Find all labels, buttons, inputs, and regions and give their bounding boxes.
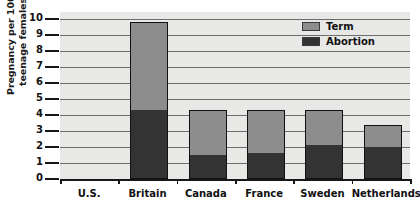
y-tick-label: 5 (19, 92, 43, 103)
x-tick-mark (293, 179, 295, 184)
bar-segment-term (131, 23, 167, 110)
x-tick-mark (118, 179, 120, 184)
y-tick-label: 8 (19, 44, 43, 55)
bar-segment-abortion (306, 145, 342, 178)
bar-sweden (364, 125, 402, 179)
y-tick-mark (45, 98, 59, 100)
x-axis-label: U.S. (60, 188, 118, 199)
bar-segment-abortion (190, 155, 226, 178)
x-tick-mark (410, 179, 412, 184)
bar-france (305, 110, 343, 179)
x-axis-label: Canada (177, 188, 235, 199)
y-tick-label: 10 (19, 12, 43, 23)
y-tick-mark (45, 178, 59, 180)
chart-container: Pregnancy per 1000 teenage females 10987… (0, 0, 420, 208)
gridline (60, 51, 410, 52)
legend-swatch-term (302, 22, 320, 31)
y-tick-label: 7 (19, 60, 43, 71)
bar-canada (247, 110, 285, 179)
gridline (60, 163, 410, 164)
y-tick-mark (45, 66, 59, 68)
y-tick-label: 6 (19, 76, 43, 87)
gridline (60, 131, 410, 132)
y-tick-label: 2 (19, 140, 43, 151)
bar-segment-abortion (131, 110, 167, 178)
y-tick-mark (45, 114, 59, 116)
bar-segment-term (365, 126, 401, 148)
bar-segment-abortion (365, 147, 401, 178)
x-tick-mark (177, 179, 179, 184)
x-tick-mark (60, 179, 62, 184)
y-tick-label: 3 (19, 124, 43, 135)
y-tick-mark (45, 34, 59, 36)
x-axis-label: Britain (118, 188, 176, 199)
gridline (60, 147, 410, 148)
legend-label-abortion: Abortion (326, 36, 375, 47)
chart-legend: Term Abortion (302, 20, 375, 50)
y-tick-mark (45, 130, 59, 132)
x-axis-label: Sweden (293, 188, 351, 199)
y-tick-mark (45, 50, 59, 52)
y-tick-label: 1 (19, 156, 43, 167)
bar-us (130, 22, 168, 179)
gridline (60, 99, 410, 100)
legend-item-abortion: Abortion (302, 35, 375, 48)
x-axis-label: Netherlands (352, 188, 410, 199)
legend-label-term: Term (326, 21, 354, 32)
y-tick-label: 9 (19, 28, 43, 39)
y-tick-mark (45, 162, 59, 164)
x-tick-mark (352, 179, 354, 184)
legend-swatch-abortion (302, 37, 320, 46)
bar-segment-abortion (248, 153, 284, 178)
x-axis-label: France (235, 188, 293, 199)
gridline (60, 115, 410, 116)
legend-item-term: Term (302, 20, 375, 33)
bar-segment-term (190, 111, 226, 154)
y-tick-label: 0 (19, 172, 43, 183)
x-tick-mark (235, 179, 237, 184)
bar-segment-term (306, 111, 342, 145)
y-tick-mark (45, 82, 59, 84)
y-tick-label: 4 (19, 108, 43, 119)
bar-segment-term (248, 111, 284, 153)
y-tick-mark (45, 146, 59, 148)
bar-britain (189, 110, 227, 179)
y-tick-mark (45, 18, 59, 20)
gridline (60, 67, 410, 68)
gridline (60, 83, 410, 84)
y-axis-title-line-1: Pregnancy per 1000 (5, 0, 17, 118)
